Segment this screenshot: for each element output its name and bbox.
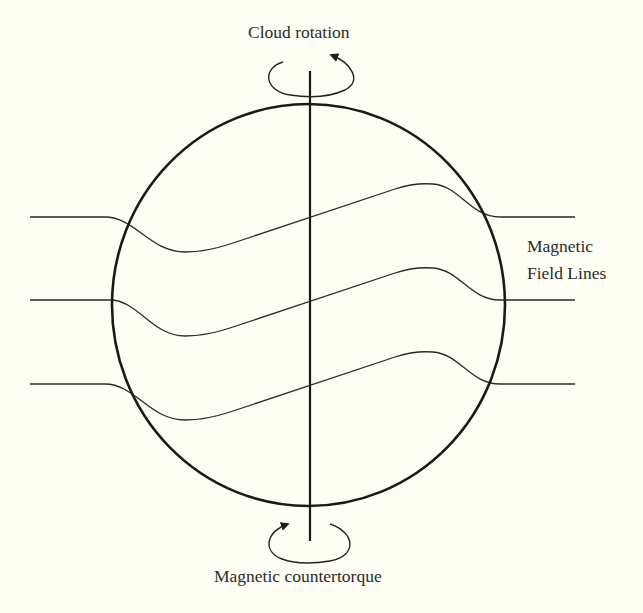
field-line-lower [30, 352, 575, 420]
magnetic-field-lines-label-line2: Field Lines [527, 260, 606, 287]
field-line-upper [30, 184, 575, 252]
cloud-rotation-label: Cloud rotation [248, 24, 350, 42]
cloud-outline [112, 104, 505, 506]
magnetic-field-lines-label-line1: Magnetic [527, 233, 606, 260]
magnetic-countertorque-label: Magnetic countertorque [214, 568, 382, 586]
cloud-rotation-arrow-icon [269, 55, 354, 97]
cloud-magnetic-braking-diagram [0, 0, 643, 613]
magnetic-field-lines-label: Magnetic Field Lines [527, 233, 606, 287]
